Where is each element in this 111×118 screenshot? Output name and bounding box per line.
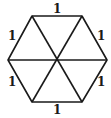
label-lower-right: 1 — [97, 75, 105, 89]
hexagon-svg: 1 1 1 1 1 1 — [0, 0, 111, 118]
label-bottom: 1 — [53, 103, 61, 117]
label-lower-left: 1 — [8, 75, 16, 89]
hexagon-diagram: 1 1 1 1 1 1 — [0, 0, 111, 118]
label-upper-right: 1 — [97, 29, 105, 43]
label-top: 1 — [53, 2, 61, 16]
label-upper-left: 1 — [8, 29, 16, 43]
